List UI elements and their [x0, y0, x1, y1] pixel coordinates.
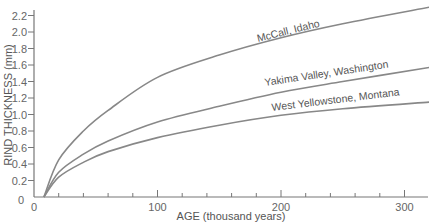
curve-label-mccall: McCall, Idaho — [256, 17, 321, 44]
rind-thickness-chart: 0.20.40.60.81.01.21.41.61.82.02.2 010020… — [0, 0, 429, 224]
x-tick-label: 100 — [148, 201, 166, 213]
curve-west-yellowstone — [44, 102, 429, 197]
y-origin-label: 0 — [18, 194, 24, 206]
x-tick-label: 300 — [395, 201, 413, 213]
y-tick-label: 0.2 — [12, 175, 27, 187]
x-axis-title: AGE (thousand years) — [177, 210, 286, 222]
y-tick-label: 2.0 — [12, 26, 27, 38]
curve-yakima — [44, 67, 429, 197]
curves — [44, 7, 429, 197]
x-tick-label: 0 — [31, 201, 37, 213]
y-ticks: 0.20.40.60.81.01.21.41.61.82.02.2 — [12, 10, 34, 187]
y-tick-label: 2.2 — [12, 10, 27, 22]
y-axis-title: RIND THICKNESS (mm) — [2, 44, 14, 165]
